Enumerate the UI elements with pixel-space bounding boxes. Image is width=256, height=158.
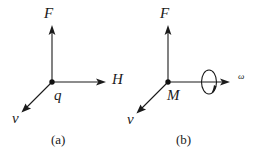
panel-b-group xyxy=(136,25,230,114)
panel-a-origin-dot xyxy=(49,79,54,84)
panel-a-axis-F xyxy=(49,25,56,82)
panel-b-axis-F xyxy=(165,25,172,82)
panel-a-label-H: H xyxy=(112,72,123,87)
panel-b-caption: (b) xyxy=(176,133,191,146)
panel-a-axis-v xyxy=(21,82,52,113)
panel-b-label-F: F xyxy=(160,6,169,21)
figure-vector-canvas xyxy=(0,0,256,158)
panel-a-label-v: v xyxy=(12,111,19,126)
panel-a-caption: (a) xyxy=(51,133,65,146)
figure-container: F H q v (a) F ω M v (b) xyxy=(0,0,256,158)
panel-a-axis-H xyxy=(52,79,106,86)
panel-b-axis-v xyxy=(136,82,168,114)
panel-b-label-v: v xyxy=(127,112,134,127)
panel-b-axis-omega xyxy=(168,79,230,86)
panel-b-axis-v-shaft xyxy=(142,82,168,108)
spin-loop-arrowhead xyxy=(211,85,216,94)
panel-b-origin-dot xyxy=(165,79,170,84)
panel-a-axis-v-shaft xyxy=(27,82,52,107)
panel-a-group xyxy=(21,25,106,113)
panel-a-label-F: F xyxy=(44,6,53,21)
panel-a-label-q: q xyxy=(54,88,62,103)
panel-b-label-omega: ω xyxy=(238,72,244,81)
panel-b-label-M: M xyxy=(167,88,180,103)
